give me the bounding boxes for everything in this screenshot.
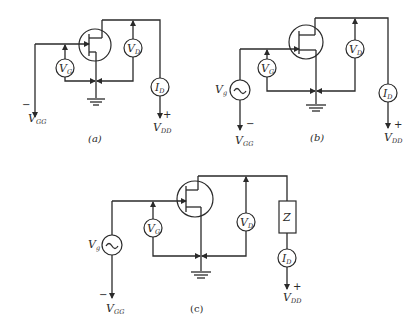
circuit-c: Vg VG VD Z ID − VGG + VDD (c) — [88, 176, 302, 316]
caption-c: (c) — [190, 303, 204, 314]
svg-text:Vg: Vg — [215, 83, 227, 97]
circuit-a: VG VD ID − VGG + VDD (a) — [22, 20, 172, 144]
svg-text:−: − — [246, 118, 254, 129]
jfet-c — [177, 176, 213, 271]
svg-text:−: − — [99, 289, 107, 300]
jfet-a — [79, 20, 111, 98]
svg-text:+: + — [394, 119, 402, 130]
circuit-b: Vg VG VD ID − VGG + VDD (b) — [215, 18, 403, 148]
caption-a: (a) — [88, 133, 102, 144]
jfet-circuit-figure: VG VD ID − VGG + VDD (a) — [0, 0, 420, 325]
svg-text:VGG: VGG — [235, 134, 253, 148]
svg-text:VGG: VGG — [28, 112, 46, 126]
ground-icon — [87, 99, 105, 105]
svg-text:VDD: VDD — [283, 291, 302, 305]
svg-text:VDD: VDD — [153, 121, 172, 135]
svg-text:VGG: VGG — [106, 302, 124, 316]
svg-text:+: + — [163, 109, 171, 120]
ground-icon — [306, 105, 326, 111]
caption-b: (b) — [310, 132, 324, 143]
svg-text:+: + — [293, 281, 301, 292]
svg-text:VDD: VDD — [384, 131, 403, 145]
svg-text:−: − — [22, 99, 30, 110]
svg-text:Vg: Vg — [88, 238, 100, 252]
ground-icon — [191, 272, 211, 278]
svg-text:Z: Z — [282, 211, 291, 224]
